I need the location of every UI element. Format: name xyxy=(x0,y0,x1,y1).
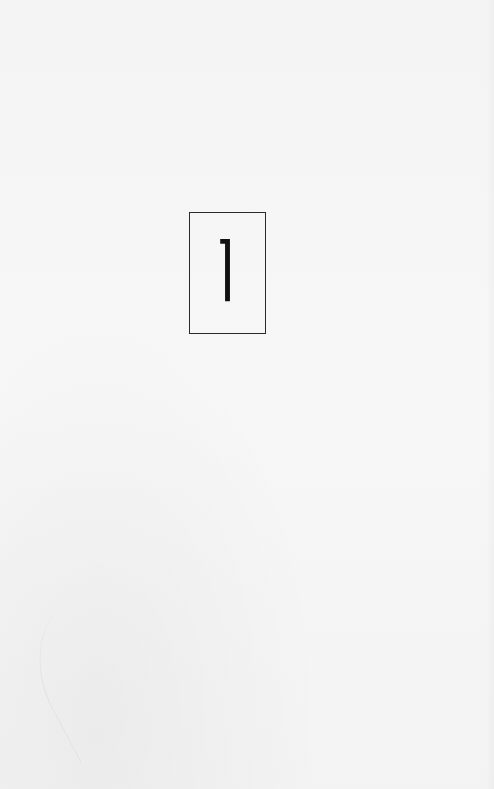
scanned-page: 1 xyxy=(0,0,494,789)
page-edge-shadow xyxy=(486,0,494,789)
boxed-page-number: 1 xyxy=(189,212,266,334)
numeral-one-glyph xyxy=(190,213,265,333)
paper-fold-crease xyxy=(10,573,187,762)
